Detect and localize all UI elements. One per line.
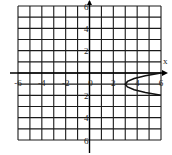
y-tick-label: 6 xyxy=(84,2,89,12)
x-tick-label: -4 xyxy=(38,78,46,88)
y-tick-label: 2 xyxy=(84,91,89,101)
y-tick-label: 2 xyxy=(84,46,89,56)
x-tick-label: 0 xyxy=(88,78,93,88)
x-tick-label: 2 xyxy=(111,78,116,88)
x-axis-arrow-icon xyxy=(162,70,168,76)
x-tick-label: 4 xyxy=(135,78,140,88)
y-tick-label: 4 xyxy=(84,113,89,123)
y-tick-label: 4 xyxy=(84,24,89,34)
x-tick-label: -6 xyxy=(14,78,22,88)
y-tick-label: 6 xyxy=(84,136,89,146)
x-tick-label: -2 xyxy=(62,78,70,88)
coordinate-plane-chart: -6-4-20246642246 x xyxy=(0,0,172,155)
x-tick-label: 6 xyxy=(159,78,164,88)
x-axis-label: x xyxy=(163,56,168,66)
